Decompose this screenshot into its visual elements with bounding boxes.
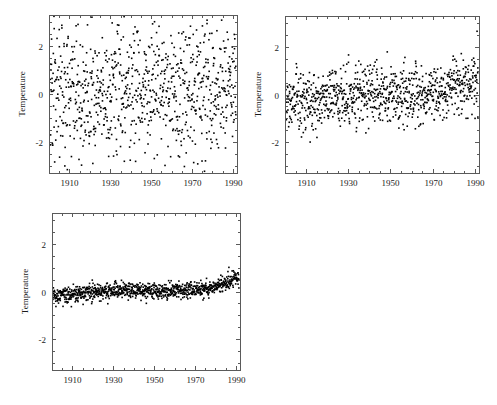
panel-c-canvas: 19101930195019701990-202Temperature — [4, 198, 254, 398]
y-tick-label: -2 — [39, 335, 47, 345]
y-axis-title: Temperature — [253, 72, 263, 117]
x-tick-label: 1910 — [61, 178, 80, 188]
figure-panel-grid: 19101930195019701990-202Temperature 1910… — [0, 0, 497, 405]
y-axis: -202 — [36, 23, 238, 167]
x-tick-label: 1970 — [184, 178, 203, 188]
y-axis-title: Temperature — [20, 269, 30, 314]
data-points — [285, 30, 478, 142]
y-tick-label: 0 — [42, 288, 47, 298]
data-points — [52, 267, 240, 308]
x-tick-label: 1970 — [425, 178, 444, 188]
x-tick-label: 1930 — [102, 178, 121, 188]
x-tick-label: 1930 — [105, 375, 124, 385]
data-points — [49, 16, 236, 173]
x-tick-label: 1910 — [64, 375, 83, 385]
x-tick-label: 1930 — [340, 178, 359, 188]
scatter-panel-a: 19101930195019701990-202Temperature — [0, 0, 250, 198]
x-tick-label: 1950 — [143, 178, 162, 188]
x-axis: 19101930195019701990 — [297, 16, 486, 188]
y-tick-label: 2 — [42, 240, 47, 250]
y-tick-label: 0 — [39, 90, 44, 100]
scatter-panel-b: 19101930195019701990-202Temperature — [236, 0, 492, 198]
y-tick-label: -2 — [36, 138, 44, 148]
x-tick-label: 1990 — [467, 178, 486, 188]
x-tick-label: 1950 — [146, 375, 165, 385]
x-tick-label: 1970 — [187, 375, 206, 385]
y-tick-label: 2 — [39, 42, 44, 52]
panel-a-canvas: 19101930195019701990-202Temperature — [0, 0, 250, 198]
x-tick-label: 1950 — [382, 178, 401, 188]
x-tick-label: 1990 — [228, 375, 247, 385]
y-axis-title: Temperature — [17, 71, 27, 116]
y-tick-label: -2 — [272, 138, 280, 148]
y-tick-label: 0 — [275, 91, 280, 101]
y-tick-label: 2 — [275, 43, 280, 53]
panel-b-canvas: 19101930195019701990-202Temperature — [236, 0, 492, 198]
scatter-panel-c: 19101930195019701990-202Temperature — [4, 198, 254, 398]
x-axis: 19101930195019701990 — [60, 15, 244, 188]
x-tick-label: 1910 — [298, 178, 317, 188]
